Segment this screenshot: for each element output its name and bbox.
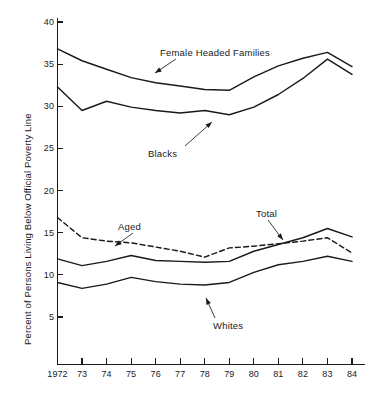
series-line-whites	[58, 256, 353, 288]
x-tick-label-79: 79	[224, 369, 234, 379]
leader-whites-arrow	[206, 298, 211, 305]
y-tick-label-20: 20	[28, 186, 54, 196]
series-label-total: Total	[256, 208, 277, 219]
x-tick-label-73: 73	[77, 369, 87, 379]
poverty-line-chart: Percent of Persons Living Below Official…	[0, 0, 377, 397]
series-label-female-headed-families: Female Headed Families	[160, 47, 270, 58]
leader-total-arrow	[277, 233, 283, 240]
y-axis-ticks	[58, 22, 64, 317]
x-tick-label-80: 80	[249, 369, 259, 379]
series-line-aged	[58, 218, 353, 258]
x-tick-label-82: 82	[298, 369, 308, 379]
x-tick-label-78: 78	[200, 369, 210, 379]
x-axis-ticks	[58, 358, 353, 365]
x-tick-label-74: 74	[101, 369, 111, 379]
x-tick-label-81: 81	[273, 369, 283, 379]
series-label-aged: Aged	[118, 221, 141, 232]
y-tick-label-40: 40	[28, 17, 54, 27]
series-label-blacks: Blacks	[148, 148, 177, 159]
y-tick-label-10: 10	[28, 270, 54, 280]
x-tick-label-1972: 1972	[47, 369, 67, 379]
y-tick-label-30: 30	[28, 101, 54, 111]
leader-female-headed-families-arrow	[155, 67, 162, 73]
series-label-whites: Whites	[213, 320, 243, 331]
chart-series-lines	[58, 49, 353, 288]
y-tick-label-5: 5	[28, 312, 54, 322]
y-tick-label-25: 25	[28, 143, 54, 153]
x-tick-label-84: 84	[347, 369, 357, 379]
chart-axes	[58, 18, 366, 365]
chart-canvas	[0, 0, 377, 397]
y-tick-label-35: 35	[28, 59, 54, 69]
x-tick-label-83: 83	[322, 369, 332, 379]
x-tick-label-76: 76	[151, 369, 161, 379]
y-tick-label-15: 15	[28, 228, 54, 238]
x-tick-label-75: 75	[126, 369, 136, 379]
x-tick-label-77: 77	[175, 369, 185, 379]
